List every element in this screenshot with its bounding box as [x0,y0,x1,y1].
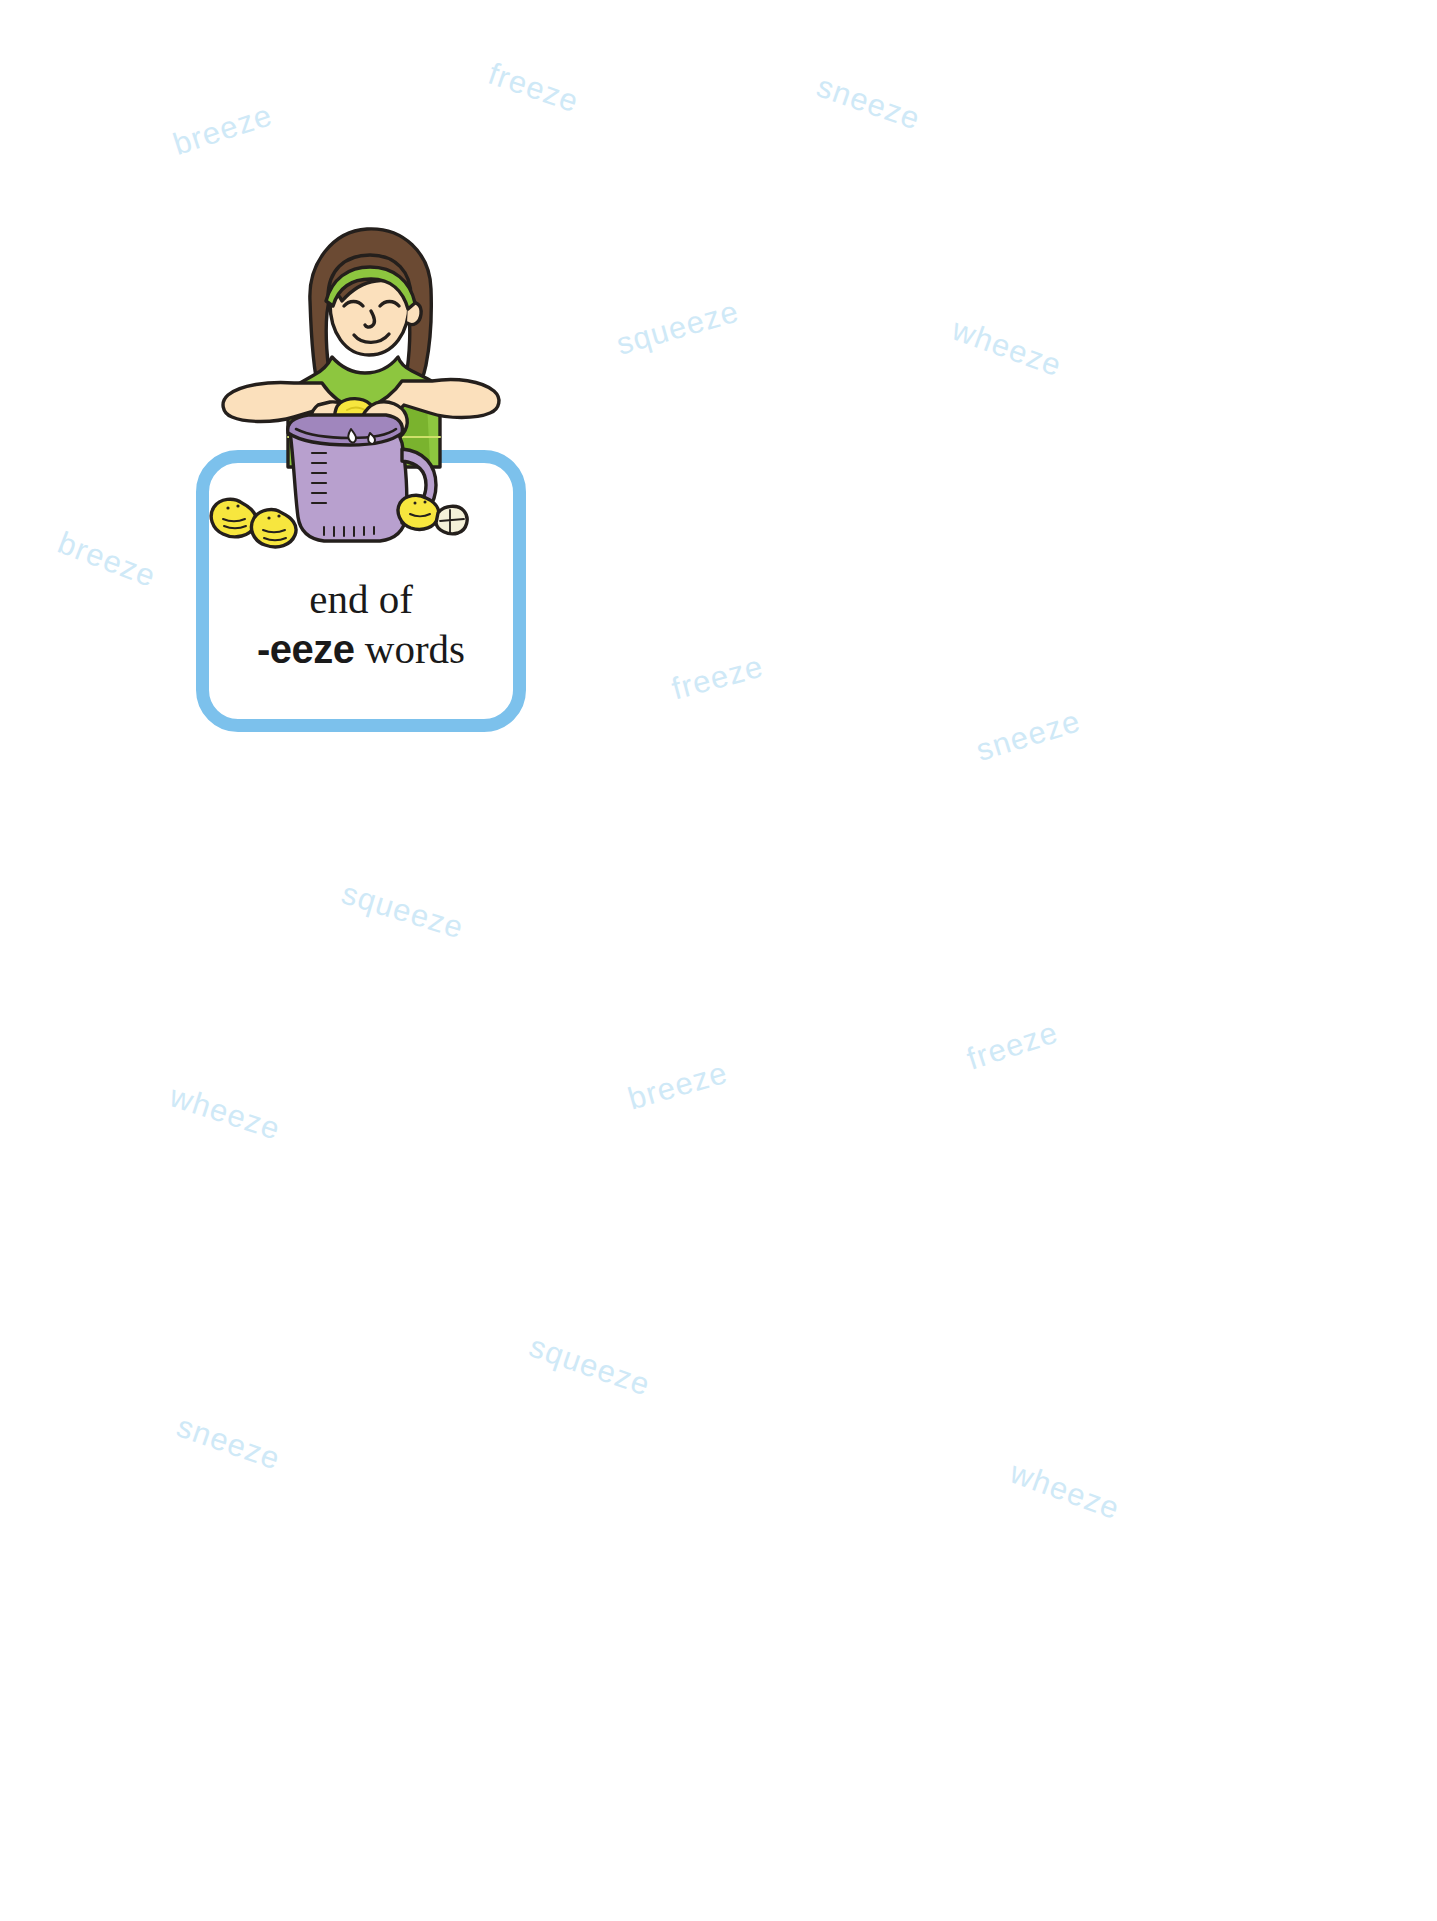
card-line-end-of: end of [309,574,413,624]
watermark-sneeze: sneeze [972,703,1085,769]
watermark-sneeze: sneeze [812,69,925,138]
watermark-wheeze: wheeze [165,1078,285,1147]
watermark-wheeze: wheeze [1005,1455,1124,1528]
watermark-breeze: breeze [169,97,277,163]
watermark-squeeze: squeeze [337,875,468,946]
card-suffix-words: words [355,626,465,672]
watermark-breeze: breeze [53,525,161,595]
card-affix-eeze: -eeze [257,627,355,671]
watermark-sneeze: sneeze [172,1409,285,1478]
watermark-freeze: freeze [484,56,584,120]
watermark-freeze: freeze [963,1014,1063,1077]
card-line-eeze-words: -eeze words [257,624,465,674]
watermark-wheeze: wheeze [947,312,1066,385]
watermark-freeze: freeze [668,649,767,708]
watermark-squeeze: squeeze [612,293,743,362]
card-text-block: end of -eeze words [196,450,526,732]
watermark-squeeze: squeeze [525,1329,655,1404]
watermark-breeze: breeze [624,1055,732,1118]
